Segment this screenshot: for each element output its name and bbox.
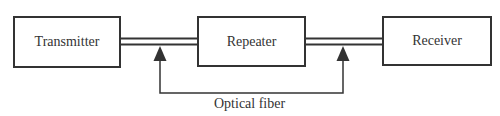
transmitter-label: Transmitter [35, 34, 100, 50]
fiber-link-left [121, 39, 197, 45]
arrow-up-icon-right [337, 46, 350, 61]
arrow-up-icon-left [154, 46, 167, 61]
diagram-canvas: Transmitter Repeater Receiver Optical fi… [0, 0, 500, 116]
fiber-link-right [306, 39, 382, 45]
repeater-box: Repeater [197, 16, 306, 67]
receiver-label: Receiver [412, 33, 462, 49]
repeater-label: Repeater [227, 34, 277, 50]
receiver-box: Receiver [382, 16, 492, 66]
optical-fiber-label: Optical fiber [214, 96, 285, 112]
transmitter-box: Transmitter [13, 16, 121, 68]
